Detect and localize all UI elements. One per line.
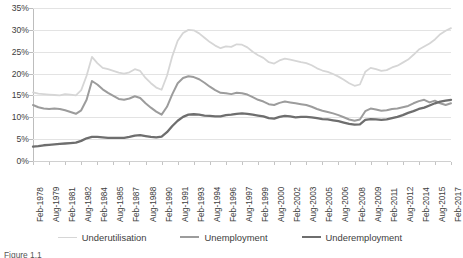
legend-swatch-line-icon bbox=[302, 236, 321, 238]
x-axis-tick-label: Feb-2005 bbox=[325, 187, 334, 222]
x-axis-tick-label: Aug-2009 bbox=[374, 187, 383, 222]
legend-item[interactable]: Underemployment bbox=[302, 232, 403, 243]
x-axis-tick-label: Feb-1984 bbox=[100, 187, 109, 222]
series-layer bbox=[33, 8, 451, 161]
series-line-underemployment bbox=[33, 100, 451, 147]
y-axis-tick bbox=[29, 52, 33, 53]
y-axis-tick bbox=[29, 117, 33, 118]
y-axis-tick-label: 30% bbox=[0, 25, 29, 34]
x-axis-tick bbox=[81, 162, 82, 165]
x-axis-labels: Feb-1978Aug-1979Feb-1981Aug-1982Feb-1984… bbox=[33, 162, 451, 224]
x-axis-tick-label: Feb-1987 bbox=[132, 187, 141, 222]
x-axis-tick bbox=[451, 162, 452, 165]
x-axis-tick bbox=[258, 162, 259, 165]
legend-label: Underutilisation bbox=[82, 232, 147, 243]
x-axis-tick bbox=[419, 162, 420, 165]
x-axis-tick-label: Aug-1982 bbox=[84, 187, 93, 222]
x-axis-tick-label: Aug-1994 bbox=[213, 187, 222, 222]
legend-item[interactable]: Underutilisation bbox=[58, 232, 147, 243]
figure-caption: Figure 1.1 bbox=[4, 250, 456, 258]
x-axis-tick-label: Aug-1988 bbox=[149, 187, 158, 222]
x-axis-tick-label: Feb-1993 bbox=[197, 187, 206, 222]
x-axis-tick-label: Feb-2008 bbox=[358, 187, 367, 222]
legend-swatch-line-icon bbox=[58, 237, 77, 238]
y-axis-tick bbox=[29, 95, 33, 96]
chart-legend: UnderutilisationUnemploymentUnderemploym… bbox=[0, 228, 460, 246]
x-axis-tick bbox=[322, 162, 323, 165]
x-axis-tick bbox=[226, 162, 227, 165]
legend-label: Unemployment bbox=[204, 232, 267, 243]
y-axis-tick-label: 0% bbox=[0, 157, 29, 166]
x-axis-tick bbox=[65, 162, 66, 165]
y-axis-tick-label: 10% bbox=[0, 113, 29, 122]
x-axis-tick-label: Aug-2015 bbox=[438, 187, 447, 222]
series-line-underutilisation bbox=[33, 28, 451, 95]
y-axis-tick bbox=[29, 74, 33, 75]
x-axis-tick-label: Feb-1978 bbox=[36, 187, 45, 222]
x-axis-tick-label: Feb-1990 bbox=[165, 187, 174, 222]
y-axis-tick-label: 20% bbox=[0, 69, 29, 78]
x-axis-tick-label: Feb-2011 bbox=[390, 188, 399, 222]
x-axis-tick-label: Aug-1991 bbox=[181, 187, 190, 222]
x-axis-tick-label: Aug-1997 bbox=[245, 187, 254, 222]
x-axis-tick-label: Aug-1985 bbox=[116, 187, 125, 222]
x-axis-tick bbox=[49, 162, 50, 165]
y-axis-tick bbox=[29, 139, 33, 140]
x-axis-tick-label: Feb-1999 bbox=[261, 187, 270, 222]
x-axis-tick-label: Aug-2012 bbox=[406, 187, 415, 222]
x-axis-tick bbox=[242, 162, 243, 165]
y-axis-tick bbox=[29, 8, 33, 9]
x-axis-tick bbox=[387, 162, 388, 165]
x-axis-tick bbox=[178, 162, 179, 165]
x-axis-tick bbox=[146, 162, 147, 165]
x-axis-tick-label: Feb-2014 bbox=[422, 187, 431, 222]
x-axis-tick bbox=[129, 162, 130, 165]
y-axis-labels: 0%5%10%15%20%25%30%35% bbox=[0, 0, 29, 175]
x-axis-tick bbox=[113, 162, 114, 165]
x-axis-tick bbox=[371, 162, 372, 165]
x-axis-tick bbox=[274, 162, 275, 165]
y-axis-tick bbox=[29, 30, 33, 31]
y-axis-tick-label: 25% bbox=[0, 47, 29, 56]
y-axis-tick-label: 5% bbox=[0, 135, 29, 144]
x-axis-tick-label: Aug-2006 bbox=[341, 187, 350, 222]
x-axis-tick bbox=[290, 162, 291, 165]
x-axis-tick-label: Feb-1996 bbox=[229, 187, 238, 222]
x-axis-tick bbox=[97, 162, 98, 165]
x-axis-tick bbox=[338, 162, 339, 165]
x-axis-tick bbox=[306, 162, 307, 165]
x-axis-tick bbox=[435, 162, 436, 165]
x-axis-tick-label: Aug-2000 bbox=[277, 187, 286, 222]
x-axis-tick bbox=[194, 162, 195, 165]
legend-item[interactable]: Unemployment bbox=[180, 232, 267, 243]
x-axis-tick bbox=[162, 162, 163, 165]
x-axis-tick bbox=[355, 162, 356, 165]
x-axis-tick-label: Aug-1979 bbox=[52, 187, 61, 222]
plot-area bbox=[33, 8, 451, 161]
x-axis-tick-label: Feb-1981 bbox=[68, 187, 77, 222]
legend-label: Underemployment bbox=[326, 232, 403, 243]
x-axis-tick-label: Aug-2003 bbox=[309, 187, 318, 222]
x-axis-tick bbox=[33, 162, 34, 165]
legend-swatch-line-icon bbox=[180, 236, 199, 238]
y-axis-tick-label: 35% bbox=[0, 4, 29, 13]
x-axis-tick-label: Feb-2017 bbox=[454, 187, 463, 222]
y-axis-tick-label: 15% bbox=[0, 91, 29, 100]
x-axis-tick bbox=[210, 162, 211, 165]
x-axis-tick-label: Feb-2002 bbox=[293, 187, 302, 222]
x-axis-tick bbox=[403, 162, 404, 165]
y-axis-tick bbox=[29, 161, 33, 162]
